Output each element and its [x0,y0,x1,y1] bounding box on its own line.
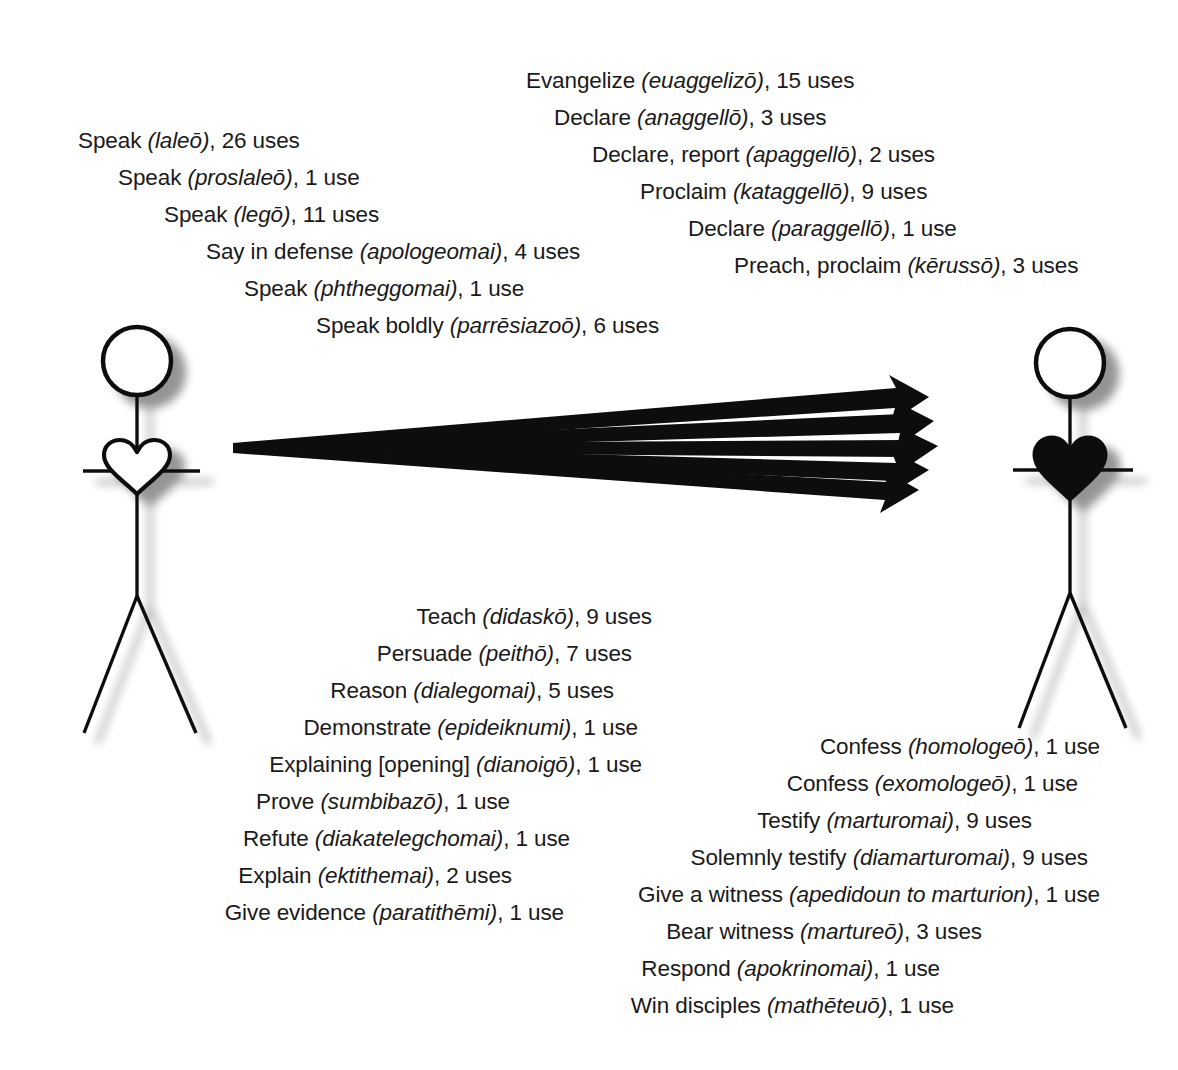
term-count: 9 uses [586,604,652,629]
term-english: Testify [757,808,820,833]
term-english: Prove [256,789,314,814]
term-english: Bear witness [666,919,794,944]
term-line: Speak (phtheggomai), 1 use [244,270,524,307]
term-english: Give evidence [225,900,366,925]
term-english: Teach [417,604,477,629]
term-count: 11 uses [303,202,379,227]
witnessing-terms-block: Confess (homologeō), 1 use Confess (exom… [506,728,1100,1024]
term-english: Speak [118,165,181,190]
term-greek: (kataggellō) [733,179,849,204]
term-count: 2 uses [446,863,512,888]
term-greek: (parrēsiazoō) [450,313,581,338]
term-greek: (marturomai) [826,808,954,833]
term-english: Confess [787,771,869,796]
term-greek: (apedidoun to marturion) [789,882,1033,907]
term-line: Speak (laleō), 26 uses [78,122,300,159]
term-english: Declare, report [592,142,739,167]
term-line: Bear witness (martureō), 3 uses [666,913,982,950]
term-line: Declare (anaggellō), 3 uses [554,99,827,136]
term-count: 9 uses [862,179,928,204]
term-line: Proclaim (kataggellō), 9 uses [640,173,927,210]
term-english: Declare [688,216,765,241]
term-line: Give a witness (apedidoun to marturion),… [638,876,1100,913]
speaker-heart-outline-icon [104,440,170,494]
term-greek: (exomologeō) [875,771,1011,796]
term-line: Say in defense (apologeomai), 4 uses [206,233,580,270]
term-count: 1 use [885,956,940,981]
term-line: Reason (dialegomai), 5 uses [330,672,614,709]
term-greek: (homologeō) [908,734,1033,759]
term-count: 3 uses [761,105,827,130]
term-greek: (paraggellō) [771,216,890,241]
term-english: Speak [164,202,227,227]
term-greek: (euaggelizō) [641,68,764,93]
term-english: Reason [330,678,407,703]
term-greek: (phtheggomai) [313,276,457,301]
term-line: Preach, proclaim (kērussō), 3 uses [734,247,1078,284]
term-english: Say in defense [206,239,353,264]
term-count: 2 uses [869,142,935,167]
term-line: Teach (didaskō), 9 uses [417,598,652,635]
term-count: 1 use [305,165,360,190]
term-count: 1 use [899,993,954,1018]
term-line: Prove (sumbibazō), 1 use [256,783,510,820]
proclaiming-terms-block: Evangelize (euaggelizō), 15 uses Declare… [526,62,1078,284]
term-greek: (didaskō) [482,604,574,629]
term-line: Declare (paraggellō), 1 use [688,210,957,247]
term-line: Testify (marturomai), 9 uses [757,802,1032,839]
term-greek: (apologeomai) [360,239,503,264]
term-count: 9 uses [1022,845,1088,870]
term-line: Speak boldly (parrēsiazoō), 6 uses [316,307,659,344]
term-line: Explain (ektithemai), 2 uses [238,857,512,894]
term-count: 1 use [455,789,510,814]
term-line: Respond (apokrinomai), 1 use [641,950,940,987]
term-greek: (paratithēmi) [372,900,497,925]
term-line: Speak (proslaleō), 1 use [118,159,360,196]
term-line: Solemnly testify (diamarturomai), 9 uses [691,839,1088,876]
stick-figure-hearer [1013,329,1133,728]
term-english: Persuade [377,641,473,666]
term-english: Explaining [opening] [269,752,470,777]
term-greek: (peithō) [478,641,554,666]
term-count: 5 uses [548,678,614,703]
term-greek: (martureō) [800,919,904,944]
term-english: Declare [554,105,631,130]
term-line: Speak (legō), 11 uses [164,196,379,233]
term-english: Confess [820,734,902,759]
term-greek: (legō) [233,202,290,227]
hearer-head-icon [1036,329,1104,397]
term-count: 7 uses [566,641,632,666]
term-count: 1 use [1023,771,1078,796]
term-english: Speak [244,276,307,301]
term-line: Persuade (peithō), 7 uses [377,635,632,672]
term-count: 3 uses [916,919,982,944]
term-greek: (laleō) [147,128,209,153]
term-count: 15 uses [776,68,854,93]
term-count: 6 uses [593,313,659,338]
term-greek: (anaggellō) [637,105,749,130]
term-greek: (proslaleō) [187,165,292,190]
term-english: Solemnly testify [691,845,847,870]
term-greek: (kērussō) [907,253,1000,278]
term-english: Explain [238,863,311,888]
term-greek: (dialegomai) [413,678,536,703]
term-line: Declare, report (apaggellō), 2 uses [592,136,935,173]
term-greek: (apaggellō) [745,142,857,167]
term-greek: (mathēteuō) [767,993,887,1018]
term-count: 26 uses [222,128,300,153]
term-count: 1 use [902,216,957,241]
term-english: Refute [243,826,309,851]
diagram-canvas: Speak (laleō), 26 uses Speak (proslaleō)… [0,0,1178,1070]
term-count: 9 uses [966,808,1032,833]
term-count: 1 use [1045,882,1100,907]
term-count: 1 use [1045,734,1100,759]
term-line: Confess (exomologeō), 1 use [787,765,1078,802]
hearer-right-leg [1070,593,1126,728]
term-greek: (diakatelegchomai) [315,826,503,851]
term-english: Evangelize [526,68,635,93]
term-english: Demonstrate [303,715,431,740]
term-count: 1 use [470,276,525,301]
term-english: Win disciples [631,993,761,1018]
term-line: Evangelize (euaggelizō), 15 uses [526,62,854,99]
term-english: Proclaim [640,179,727,204]
